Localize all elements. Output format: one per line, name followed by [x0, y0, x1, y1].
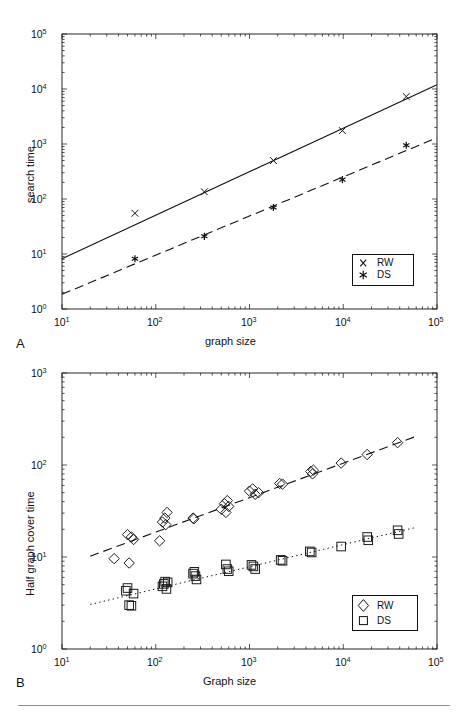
asterisk-marker	[132, 142, 410, 263]
diamond-marker	[356, 598, 372, 613]
panel-a-ytick-5: 105	[31, 29, 46, 40]
panel-a-y-axis-title: search time	[24, 146, 36, 203]
panel-a-xtick-2: 103	[241, 317, 256, 328]
panel-a-legend-label-ds: DS	[372, 269, 391, 281]
panel-b-ytick-3: 103	[31, 368, 46, 379]
cross-marker	[356, 257, 372, 269]
panel-a-legend: RW DS	[352, 254, 414, 286]
panel-b: 103 102 101 100 101 102 103 104 105 Grap…	[0, 355, 469, 717]
panel-b-xtick-3: 104	[335, 657, 350, 668]
panel-a-xtick-3: 104	[335, 317, 350, 328]
panel-a-x-axis-title: graph size	[205, 335, 256, 347]
panel-b-xtick-0: 101	[54, 657, 69, 668]
figure-container: 105 104 103 102 101 100 101 102 103 104 …	[0, 0, 469, 717]
panel-b-xtick-1: 102	[147, 657, 162, 668]
cross-marker	[132, 93, 410, 217]
panel-b-legend: RW DS	[352, 595, 418, 631]
panel-a-letter: A	[16, 336, 25, 351]
panel-b-plot	[0, 355, 469, 717]
panel-b-legend-row-ds: DS	[356, 613, 413, 628]
panel-b-ytick-2: 102	[31, 460, 46, 471]
panel-a-xtick-1: 102	[147, 317, 162, 328]
panel-a-legend-label-rw: RW	[372, 257, 393, 269]
asterisk-marker	[356, 269, 372, 281]
panel-a-ytick-4: 104	[31, 84, 46, 95]
panel-a-xtick-4: 105	[428, 317, 443, 328]
panel-a-legend-row-ds: DS	[356, 269, 409, 281]
bottom-divider	[18, 705, 450, 706]
panel-a-legend-row-rw: RW	[356, 257, 409, 269]
panel-b-legend-row-rw: RW	[356, 598, 413, 613]
panel-b-y-axis-title: Half graph cover time	[24, 491, 36, 596]
panel-b-xtick-4: 105	[428, 657, 443, 668]
panel-b-legend-label-rw: RW	[372, 598, 393, 613]
panel-b-legend-label-ds: DS	[372, 613, 391, 628]
panel-b-ytick-0: 100	[31, 644, 46, 655]
square-marker	[356, 613, 372, 628]
panel-b-letter: B	[16, 675, 25, 690]
panel-b-xtick-2: 103	[241, 657, 256, 668]
panel-a-xtick-0: 101	[54, 317, 69, 328]
panel-b-x-axis-title: Graph size	[203, 675, 256, 687]
panel-a-ytick-0: 100	[31, 304, 46, 315]
panel-a-plot	[0, 0, 469, 360]
panel-a: 105 104 103 102 101 100 101 102 103 104 …	[0, 0, 469, 360]
panel-a-ytick-1: 101	[31, 249, 46, 260]
